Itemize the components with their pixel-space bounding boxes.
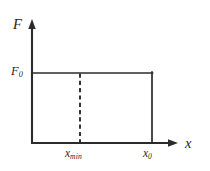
force-displacement-figure: F x F0 xmin x0 — [0, 0, 210, 171]
x-tick-label-x0: x0 — [143, 148, 152, 160]
y-tick-label-f0-base: F — [11, 64, 19, 78]
x-tick-label-xmin-subscript: min — [70, 152, 82, 161]
y-tick-label-f0-subscript: 0 — [19, 70, 23, 79]
figure-canvas — [0, 0, 210, 171]
x-axis-arrow-icon — [168, 139, 178, 146]
y-tick-label-f0: F0 — [11, 65, 23, 78]
x-tick-label-xmin: xmin — [65, 148, 82, 160]
y-axis-arrow-icon — [28, 19, 35, 29]
x-tick-label-x0-subscript: 0 — [148, 152, 152, 161]
y-axis-label: F — [13, 17, 22, 32]
x-axis-label: x — [185, 136, 191, 151]
